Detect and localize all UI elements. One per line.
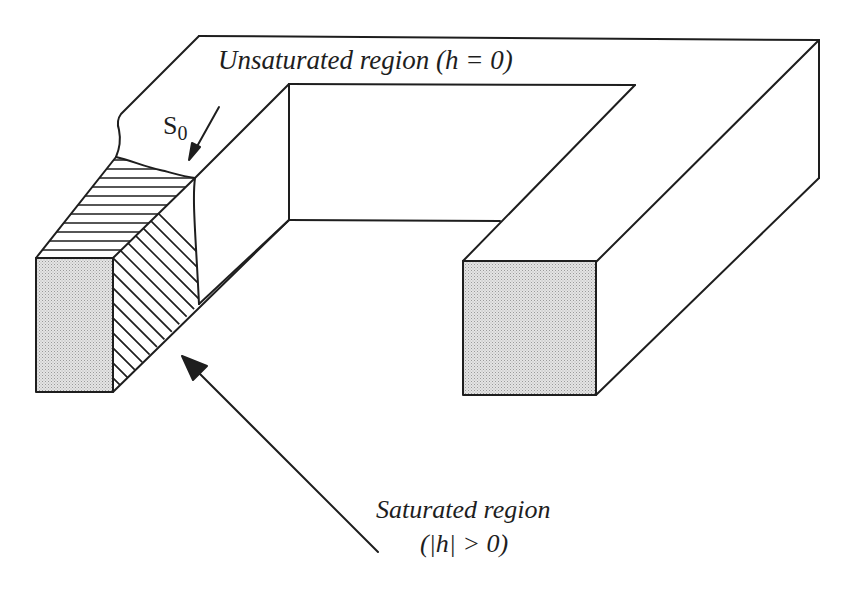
right-cross-section bbox=[463, 261, 596, 395]
s0-arrow bbox=[189, 107, 219, 160]
saturated-arrow bbox=[182, 356, 378, 552]
saturation-front bbox=[116, 157, 195, 178]
s0-label-main: S bbox=[163, 111, 177, 140]
s0-label-subscript: 0 bbox=[177, 122, 187, 144]
unsaturated-region-label: Unsaturated region (h = 0) bbox=[218, 47, 513, 74]
right-leg bbox=[463, 40, 819, 395]
saturated-region-label: Saturated region bbox=[376, 497, 551, 523]
left-cross-section bbox=[36, 258, 113, 392]
s0-label: S0 bbox=[163, 113, 187, 143]
saturated-condition-label: (|h| > 0) bbox=[420, 531, 508, 557]
left-leg bbox=[20, 36, 289, 495]
